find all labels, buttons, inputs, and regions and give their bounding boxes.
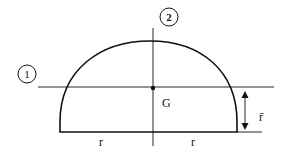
centroid-dot xyxy=(151,86,155,90)
dimension-label: r̄ xyxy=(259,110,264,124)
semicircle-diagram: 1 2 G r̄ r r xyxy=(0,0,288,155)
base-label-right: r xyxy=(191,135,195,149)
axis-1-label: 1 xyxy=(24,68,30,80)
dimension-arrow xyxy=(242,91,249,130)
axis-2-marker: 2 xyxy=(160,8,178,26)
base-label-left: r xyxy=(99,135,103,149)
axis-2-label: 2 xyxy=(166,11,172,23)
axis-1-marker: 1 xyxy=(18,65,36,83)
centroid-label: G xyxy=(162,96,171,110)
semicircle-outline xyxy=(60,41,237,132)
